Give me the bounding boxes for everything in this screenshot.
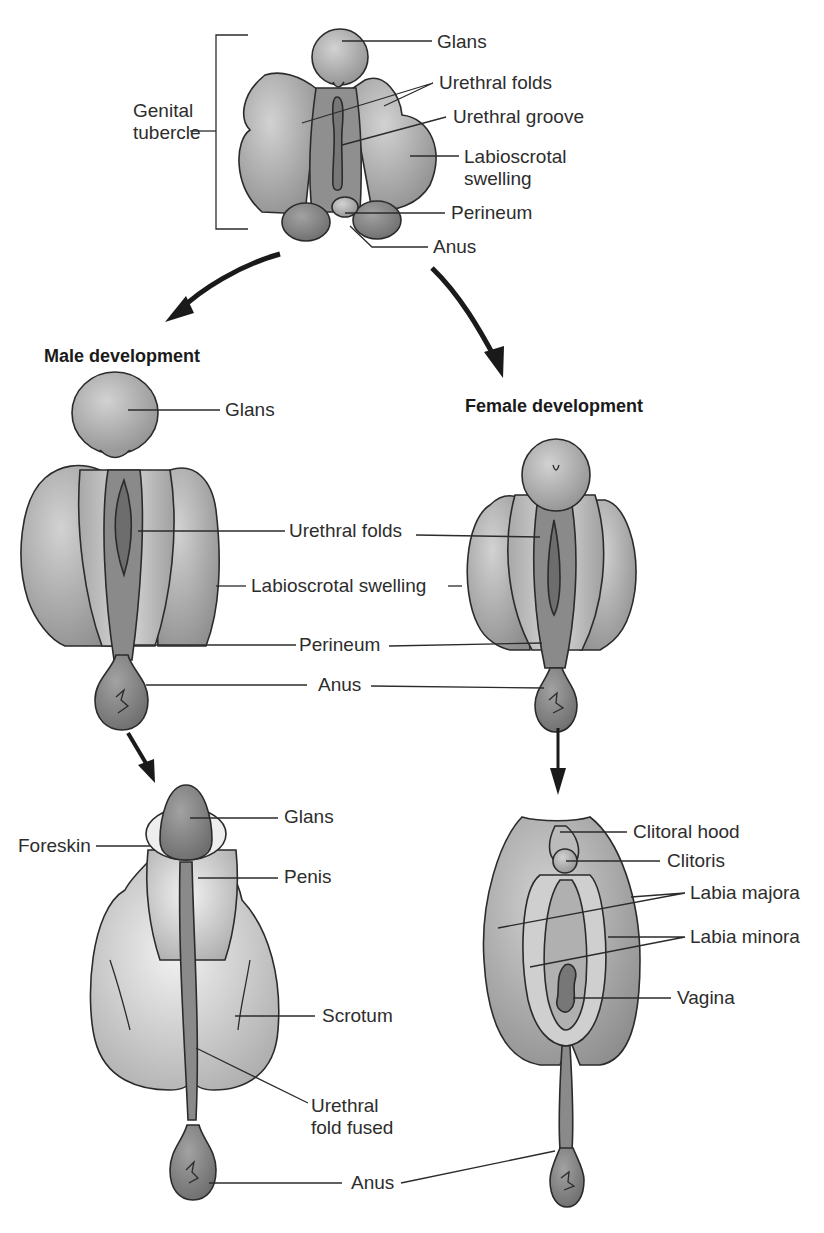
male-development-heading: Male development — [44, 346, 200, 367]
genital-development-diagram: Genital tubercle Glans Urethral folds Ur… — [0, 0, 824, 1233]
top-labioscrotal-label: Labioscrotal swelling — [464, 146, 566, 190]
mid-urethral-folds-label: Urethral folds — [289, 520, 402, 542]
genital-tubercle-label: Genital tubercle — [133, 100, 201, 144]
urethral-fold-line1: Urethral — [311, 1095, 393, 1117]
female-final-illustration — [401, 817, 685, 1207]
male-path-arrow-icon — [165, 254, 280, 322]
vagina-label: Vagina — [677, 987, 735, 1009]
top-perineum-label: Perineum — [451, 202, 532, 224]
clitoris-label: Clitoris — [667, 850, 725, 872]
mid-anus-label: Anus — [318, 674, 361, 696]
male-glans-label: Glans — [284, 806, 334, 828]
top-glans-label: Glans — [437, 31, 487, 53]
genital-tubercle-line2: tubercle — [133, 122, 201, 144]
female-development-heading: Female development — [465, 396, 643, 417]
clitoral-hood-label: Clitoral hood — [633, 821, 740, 843]
top-urethral-groove-label: Urethral groove — [453, 106, 584, 128]
urethral-fold-fused-label: Urethral fold fused — [311, 1095, 393, 1139]
foreskin-label: Foreskin — [18, 835, 91, 857]
top-urethral-folds-label: Urethral folds — [439, 72, 552, 94]
mid-perineum-label: Perineum — [299, 634, 380, 656]
labioscrotal-line2: swelling — [464, 168, 566, 190]
top-anus-label: Anus — [433, 236, 476, 258]
labia-majora-label: Labia majora — [690, 882, 800, 904]
penis-label: Penis — [284, 866, 332, 888]
bottom-anus-label: Anus — [351, 1172, 394, 1194]
male-final-arrow-icon — [128, 733, 155, 783]
female-final-arrow-icon — [550, 728, 566, 795]
labioscrotal-line1: Labioscrotal — [464, 146, 566, 168]
mid-glans-label: Glans — [225, 399, 275, 421]
scrotum-label: Scrotum — [322, 1005, 393, 1027]
female-path-arrow-icon — [432, 268, 504, 378]
indifferent-stage-illustration — [190, 29, 459, 247]
labia-minora-label: Labia minora — [690, 926, 800, 948]
male-final-illustration — [90, 785, 342, 1200]
mid-labioscrotal-swelling-label: Labioscrotal swelling — [251, 575, 426, 597]
genital-tubercle-line1: Genital — [133, 100, 201, 122]
diagram-artwork — [0, 0, 824, 1233]
urethral-fold-line2: fold fused — [311, 1117, 393, 1139]
male-intermediate-illustration — [21, 372, 307, 730]
